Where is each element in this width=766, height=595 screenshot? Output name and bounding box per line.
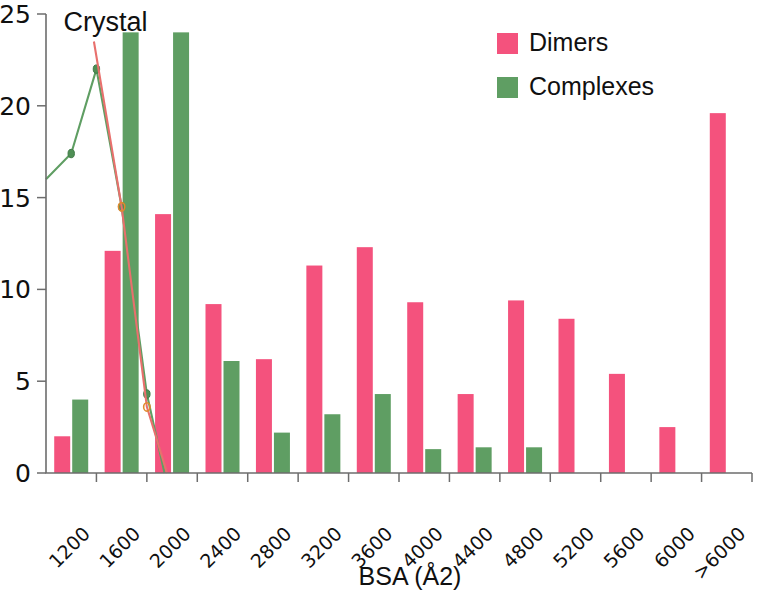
legend-label-complexes: Complexes [529,72,654,100]
chart-legend: DimersComplexes [497,28,654,100]
bar-dimers-3600 [357,247,373,473]
x-tick-label-2400: 2400 [196,522,246,572]
chart-annotations: Crystal [64,7,148,37]
y-axis-ticks: 0510152025 [0,0,46,488]
bar-dimers-2000 [155,214,171,473]
bar-complexes-3600 [375,394,391,473]
bar-dimers-5200 [559,319,575,473]
x-tick-label-1600: 1600 [95,522,145,572]
bar-dimers-1600 [105,251,121,473]
legend-swatch-complexes [497,77,518,98]
bar-dimers-4000 [407,302,423,473]
x-tick-label-2800: 2800 [246,522,296,572]
legend-label-dimers: Dimers [529,28,608,56]
bar-dimers-3200 [306,266,322,473]
bar-complexes-1200 [72,400,88,473]
bar-dimers-4400 [458,394,474,473]
bar-complexes-4800 [526,447,542,473]
y-tick-label-5: 5 [15,367,31,396]
bar-complexes-4400 [476,447,492,473]
chart-container: 0510152025 12001600200024002800320036004… [0,0,766,595]
bar-complexes-4000 [425,449,441,473]
x-tick-label-2000: 2000 [145,522,195,572]
annotation-crystal: Crystal [64,7,148,37]
bar-dimers-1200 [54,436,70,473]
bar-dimers->6000 [710,113,726,473]
bar-complexes-3200 [324,414,340,473]
bar-dimers-4800 [508,300,524,473]
x-tick-label-5600: 5600 [599,522,649,572]
y-tick-label-25: 25 [0,0,31,29]
bar-complexes-2800 [274,433,290,473]
y-tick-label-15: 15 [0,184,31,213]
bar-dimers-2800 [256,359,272,473]
x-tick-label-4800: 4800 [498,522,548,572]
x-tick-label-1200: 1200 [44,522,94,572]
bar-dimers-6000 [659,427,675,473]
bsa-distribution-chart: 0510152025 12001600200024002800320036004… [0,0,766,595]
bar-complexes-1600 [123,32,139,473]
plot-area: 0510152025 12001600200024002800320036004… [0,0,752,590]
y-tick-label-0: 0 [15,459,31,488]
line-marker-crystal [68,149,74,157]
bar-complexes-2000 [173,32,189,473]
bar-dimers-2400 [206,304,222,473]
legend-swatch-dimers [497,33,518,54]
x-tick-label-3200: 3200 [296,522,346,572]
x-tick-label-5200: 5200 [549,522,599,572]
x-axis-title: BSA (Å2) [359,561,462,590]
x-tick-label->6000: >6000 [689,522,750,583]
bar-dimers-5600 [609,374,625,473]
y-tick-label-10: 10 [0,275,31,304]
y-tick-label-20: 20 [0,92,31,121]
bar-complexes-2400 [224,361,240,473]
